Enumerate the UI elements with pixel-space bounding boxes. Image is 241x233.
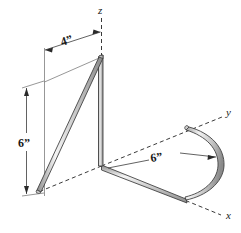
x-axis-label: x xyxy=(225,209,231,221)
dim-label-6in-vertical: 6” xyxy=(18,136,30,150)
bent-rod-diagram: z y x 4” 6” xyxy=(0,0,241,233)
figure-background xyxy=(0,0,241,233)
figure-container: z y x 4” 6” xyxy=(0,0,241,233)
dim-label-6in-radius: 6” xyxy=(149,149,163,165)
rod-segment-vertical xyxy=(99,55,104,166)
y-axis-label: y xyxy=(225,106,231,118)
z-axis-label: z xyxy=(97,4,103,16)
